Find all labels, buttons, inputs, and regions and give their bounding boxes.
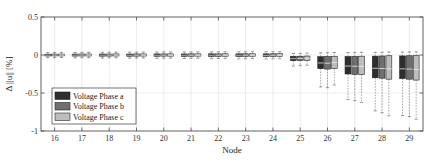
legend-label-0: Voltage Phase a — [73, 92, 124, 101]
boxplot-group-node-20 — [154, 52, 174, 58]
x-tick-label: 21 — [187, 134, 195, 143]
box-rect — [352, 56, 358, 74]
boxplot-group-node-22 — [209, 52, 229, 59]
box-rect — [413, 56, 419, 80]
box-rect — [325, 57, 331, 70]
legend: Voltage Phase aVoltage Phase bVoltage Ph… — [52, 88, 136, 124]
x-tick-label: 16 — [51, 134, 59, 143]
legend-swatch-1 — [55, 103, 70, 111]
x-tick-label: 18 — [105, 134, 113, 143]
x-axis-label: Node — [222, 145, 242, 155]
boxplot-figure: 0.50-0.5-11617181920212223242526272829No… — [0, 0, 431, 163]
box-rect — [386, 56, 392, 79]
box-rect — [379, 56, 385, 78]
x-tick-label: 23 — [242, 134, 250, 143]
boxplot-group-node-25 — [290, 53, 310, 66]
x-tick-label: 27 — [351, 134, 359, 143]
box-rect — [372, 56, 378, 78]
boxplot-group-node-23 — [236, 52, 256, 59]
box-rect — [406, 56, 412, 79]
x-tick-label: 28 — [378, 134, 386, 143]
legend-swatch-2 — [55, 113, 70, 121]
x-tick-label: 26 — [324, 134, 332, 143]
y-tick-label: -1 — [31, 127, 38, 136]
legend-swatch-0 — [55, 92, 70, 100]
y-tick-label: 0 — [34, 51, 38, 60]
x-tick-label: 29 — [405, 134, 413, 143]
boxplot-group-node-21 — [181, 52, 201, 59]
y-tick-label: -0.5 — [25, 89, 38, 98]
box-rect — [345, 57, 351, 74]
chart-canvas: 0.50-0.5-11617181920212223242526272829No… — [0, 0, 431, 163]
legend-label-1: Voltage Phase b — [73, 102, 124, 111]
boxplot-group-node-17 — [72, 52, 92, 58]
x-tick-label: 17 — [78, 134, 86, 143]
box-rect — [400, 56, 406, 79]
y-axis-label: Δ ||u|| [%] — [4, 57, 14, 92]
boxplot-group-node-18 — [99, 52, 119, 58]
x-tick-label: 24 — [269, 134, 277, 143]
box-rect — [359, 56, 365, 74]
boxplot-group-node-19 — [127, 52, 147, 58]
x-tick-label: 25 — [296, 134, 304, 143]
y-tick-label: 0.5 — [28, 13, 38, 22]
legend-label-2: Voltage Phase c — [73, 113, 124, 122]
x-tick-label: 20 — [160, 134, 168, 143]
boxplot-group-node-16 — [45, 52, 65, 57]
x-tick-label: 19 — [133, 134, 141, 143]
x-tick-label: 22 — [214, 134, 222, 143]
boxplot-group-node-24 — [263, 52, 283, 59]
